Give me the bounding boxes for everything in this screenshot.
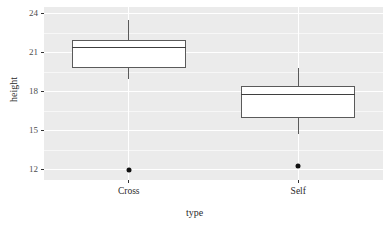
y-tick-label: 24 <box>29 9 38 18</box>
y-tick-mark <box>41 13 44 14</box>
grid-line-major <box>44 13 383 14</box>
grid-line-minor <box>44 150 383 151</box>
whisker-upper <box>128 20 129 40</box>
grid-line-minor <box>44 72 383 73</box>
x-tick-mark <box>298 180 299 183</box>
whisker-upper <box>298 68 299 86</box>
y-tick-label: 21 <box>29 48 38 57</box>
x-tick-label-self: Self <box>291 186 306 196</box>
y-axis-title: height <box>8 60 19 120</box>
whisker-lower <box>298 118 299 135</box>
y-tick-label: 12 <box>29 165 38 174</box>
y-tick-label: 15 <box>29 126 38 135</box>
grid-line-major <box>44 169 383 170</box>
y-tick-label: 18 <box>29 87 38 96</box>
plot-panel <box>44 7 383 180</box>
grid-line-minor <box>44 33 383 34</box>
grid-line-major <box>44 130 383 131</box>
x-axis-title: type <box>0 207 389 218</box>
y-tick-mark <box>41 91 44 92</box>
box-cross <box>72 40 186 69</box>
y-tick-mark <box>41 52 44 53</box>
y-tick-mark <box>41 169 44 170</box>
y-tick-mark <box>41 130 44 131</box>
box-self <box>241 86 355 117</box>
median-line-cross <box>72 47 186 48</box>
outlier-point-cross <box>126 167 131 172</box>
x-tick-label-cross: Cross <box>118 186 140 196</box>
x-tick-mark <box>128 180 129 183</box>
whisker-lower <box>128 68 129 78</box>
median-line-self <box>241 94 355 95</box>
boxplot-chart: 1215182124 CrossSelf height type <box>0 0 389 229</box>
outlier-point-self <box>296 163 301 168</box>
